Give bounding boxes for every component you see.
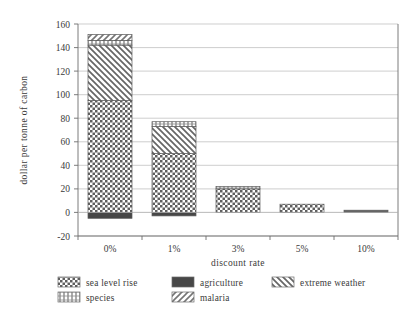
- y-tick-label: -20: [57, 232, 70, 242]
- legend-swatch-species: [58, 292, 80, 302]
- y-tick-label: 40: [61, 161, 71, 171]
- legend-label-extreme-weather: extreme weather: [300, 278, 366, 288]
- x-axis-title: discount rate: [211, 258, 265, 268]
- y-tick-label: 140: [56, 43, 71, 53]
- stacked-bar-chart: 160 140 120 100 80 60 40 20 0 -20 0% 1% …: [0, 0, 416, 318]
- bar-segment-sea-level-rise: [280, 204, 324, 212]
- bar-segment-sea-level-rise: [216, 189, 260, 213]
- legend-swatch-extreme-weather: [272, 277, 294, 287]
- legend-label-agriculture: agriculture: [200, 278, 243, 288]
- bar-group-1pct: [152, 122, 196, 216]
- x-tick-label: 10%: [357, 244, 375, 254]
- bar-group-5pct: [280, 204, 324, 212]
- bar-segment-species: [152, 122, 196, 127]
- legend-swatch-malaria: [172, 292, 194, 302]
- legend-label-species: species: [86, 293, 115, 303]
- y-tick-label: 60: [61, 137, 71, 147]
- legend-label-malaria: malaria: [200, 293, 230, 303]
- bar-segment-agriculture: [152, 212, 196, 216]
- bar-segment-species: [216, 187, 260, 189]
- y-tick-label: 0: [65, 208, 70, 218]
- bar-group-3pct: [216, 187, 260, 213]
- y-tick-label: 80: [61, 114, 71, 124]
- y-axis-title: dollar per tonne of carbon: [19, 75, 29, 184]
- bar-segment-agriculture: [88, 212, 132, 218]
- y-tick-label: 160: [56, 20, 71, 30]
- legend-swatch-sea-level-rise: [58, 277, 80, 287]
- legend-label-sea-level-rise: sea level rise: [86, 278, 138, 288]
- bar-segment-species: [88, 40, 132, 45]
- x-tick-label: 3%: [232, 244, 245, 254]
- bar-segment-sea-level-rise: [88, 101, 132, 213]
- legend-swatch-agriculture: [172, 277, 194, 287]
- x-tick-label: 0%: [104, 244, 117, 254]
- y-tick-label: 120: [56, 67, 71, 77]
- x-tick-label: 5%: [296, 244, 309, 254]
- y-tick-label: 100: [56, 90, 71, 100]
- bar-segment-malaria: [88, 35, 132, 41]
- bar-group-0pct: [88, 35, 132, 219]
- bar-segment-extreme-weather: [152, 126, 196, 153]
- x-tick-label: 1%: [168, 244, 181, 254]
- bar-segment-extreme-weather: [88, 45, 132, 100]
- bar-segment-sea-level-rise: [152, 154, 196, 213]
- y-tick-label: 20: [61, 184, 71, 194]
- chart-container: 160 140 120 100 80 60 40 20 0 -20 0% 1% …: [0, 0, 416, 318]
